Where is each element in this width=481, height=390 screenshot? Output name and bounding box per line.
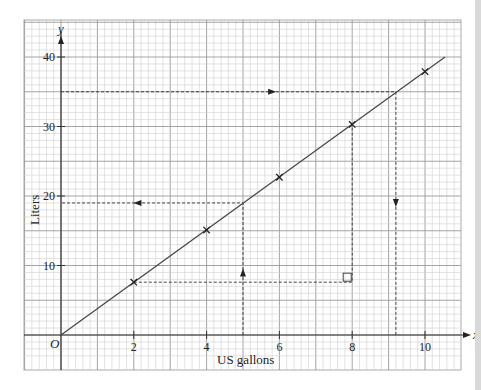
chart: x y O US gallons Liters 246810 10203040 xyxy=(0,0,481,390)
x-tick-label: 8 xyxy=(349,340,355,354)
x-tick-label: 2 xyxy=(131,340,137,354)
x-tick-label: 4 xyxy=(204,340,210,354)
x-axis-arrow-icon xyxy=(463,332,471,338)
y-axis-symbol: y xyxy=(56,21,64,36)
y-tick-label: 30 xyxy=(43,120,55,134)
y-tick-label: 10 xyxy=(43,259,55,273)
x-axis-label: US gallons xyxy=(217,352,274,367)
x-tick-label: 6 xyxy=(276,340,282,354)
page-edge-band xyxy=(475,0,481,390)
y-tick-label: 20 xyxy=(43,189,55,203)
origin-label: O xyxy=(50,336,60,351)
x-tick-label: 10 xyxy=(419,340,431,354)
y-tick-label: 40 xyxy=(43,50,55,64)
y-axis-label: Liters xyxy=(27,195,42,225)
